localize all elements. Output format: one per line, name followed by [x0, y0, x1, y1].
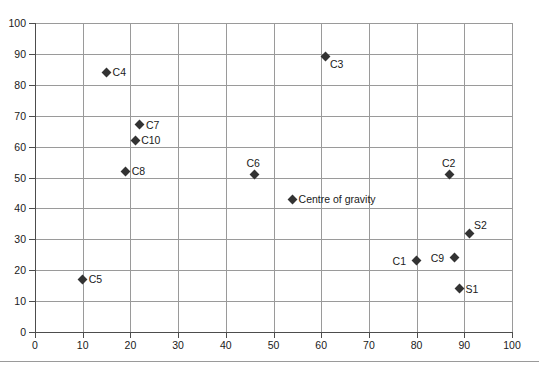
y-tick-100 [29, 23, 35, 24]
y-tick-80 [29, 85, 35, 86]
data-point-label-c8: C8 [132, 166, 145, 177]
data-point-label-c3: C3 [330, 59, 343, 70]
data-point-label-c5: C5 [89, 274, 102, 285]
x-tick-label-70: 70 [349, 340, 389, 351]
data-point-label-c9: C9 [431, 253, 444, 264]
gridline-x-100 [512, 23, 513, 332]
y-tick-label-0: 0 [0, 327, 26, 337]
y-tick-label-40: 40 [0, 203, 26, 213]
y-tick-90 [29, 54, 35, 55]
data-point-c9 [450, 253, 460, 263]
x-tick-80 [417, 332, 418, 338]
x-tick-30 [178, 332, 179, 338]
gridline-x-40 [226, 23, 227, 332]
y-tick-60 [29, 147, 35, 148]
data-point-label-c6: C6 [246, 158, 259, 169]
data-point-label-s1: S1 [466, 284, 479, 295]
gridline-x-20 [130, 23, 131, 332]
x-tick-label-80: 80 [397, 340, 437, 351]
x-tick-label-100: 100 [492, 340, 532, 351]
x-tick-label-30: 30 [158, 340, 198, 351]
data-point-c10 [130, 135, 140, 145]
y-tick-40 [29, 208, 35, 209]
gridline-x-30 [178, 23, 179, 332]
x-tick-50 [274, 332, 275, 338]
scatter-chart: C4C7C10C8C5C6Centre of gravityC3C2S2C9C1… [0, 0, 539, 374]
x-tick-40 [226, 332, 227, 338]
y-tick-label-30: 30 [0, 234, 26, 244]
y-tick-label-10: 10 [0, 296, 26, 306]
data-point-label-c7: C7 [146, 120, 159, 131]
x-tick-label-20: 20 [110, 340, 150, 351]
y-tick-label-70: 70 [0, 111, 26, 121]
y-tick-30 [29, 239, 35, 240]
plot-area: C4C7C10C8C5C6Centre of gravityC3C2S2C9C1… [35, 23, 512, 332]
data-point-label-c1: C1 [393, 256, 406, 267]
gridline-x-50 [274, 23, 275, 332]
x-tick-10 [83, 332, 84, 338]
x-tick-0 [35, 332, 36, 338]
y-tick-label-90: 90 [0, 49, 26, 59]
data-point-label-c2: C2 [442, 158, 455, 169]
y-tick-70 [29, 116, 35, 117]
x-tick-label-10: 10 [63, 340, 103, 351]
y-tick-10 [29, 301, 35, 302]
y-tick-20 [29, 270, 35, 271]
x-tick-label-0: 0 [15, 340, 55, 351]
y-tick-label-60: 60 [0, 142, 26, 152]
y-tick-label-80: 80 [0, 80, 26, 90]
data-point-label-c4: C4 [113, 67, 126, 78]
data-point-label-s2: S2 [474, 220, 487, 231]
data-point-s2 [464, 228, 474, 238]
data-point-label-centre-of-gravity: Centre of gravity [299, 194, 376, 205]
data-point-s1 [455, 284, 465, 294]
data-point-centre-of-gravity [288, 194, 298, 204]
data-point-c7 [135, 120, 145, 130]
y-tick-label-100: 100 [0, 18, 26, 28]
y-tick-label-20: 20 [0, 265, 26, 275]
x-tick-label-60: 60 [301, 340, 341, 351]
x-tick-100 [512, 332, 513, 338]
x-tick-90 [464, 332, 465, 338]
x-tick-20 [130, 332, 131, 338]
gridline-x-70 [369, 23, 370, 332]
x-tick-label-40: 40 [206, 340, 246, 351]
data-point-c1 [412, 256, 422, 266]
y-tick-50 [29, 178, 35, 179]
gridline-x-80 [417, 23, 418, 332]
gridline-x-10 [83, 23, 84, 332]
y-axis-line [35, 23, 36, 333]
footer-divider [0, 361, 539, 362]
x-tick-label-50: 50 [254, 340, 294, 351]
data-point-c4 [102, 67, 112, 77]
x-tick-60 [321, 332, 322, 338]
gridline-x-60 [321, 23, 322, 332]
data-point-label-c10: C10 [141, 135, 160, 146]
data-point-c5 [78, 275, 88, 285]
x-tick-label-90: 90 [444, 340, 484, 351]
data-point-c8 [121, 166, 131, 176]
y-tick-label-50: 50 [0, 173, 26, 183]
x-tick-70 [369, 332, 370, 338]
